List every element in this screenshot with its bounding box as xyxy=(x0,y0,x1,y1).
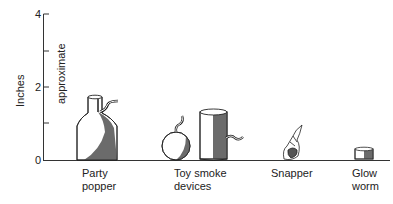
smoke-cylinder-drawing xyxy=(200,109,243,161)
smoke-ball-drawing xyxy=(162,116,190,160)
novelty-fireworks-size-diagram: 4 2 0 Inches approximate Party popper To… xyxy=(0,0,393,204)
y-axis-label: Inches xyxy=(14,75,26,107)
y-tick-0: 0 xyxy=(35,154,41,166)
label-party-popper: Party popper xyxy=(82,167,116,193)
y-tick-2: 2 xyxy=(35,81,41,93)
y-tick-4: 4 xyxy=(35,8,41,20)
approximate-note: approximate xyxy=(55,43,67,104)
snapper-drawing xyxy=(283,125,302,160)
party-popper-drawing xyxy=(77,95,118,160)
label-snapper: Snapper xyxy=(271,167,313,180)
glow-worm-drawing xyxy=(355,147,373,159)
label-glow-worm: Glow worm xyxy=(352,167,379,193)
label-toy-smoke-devices: Toy smoke devices xyxy=(174,167,227,193)
y-axis xyxy=(44,14,50,160)
